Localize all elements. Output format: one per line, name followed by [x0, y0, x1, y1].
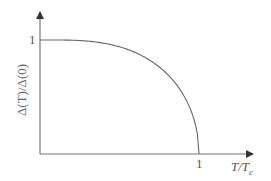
y-tick-label: 1	[29, 32, 36, 48]
gap-temperature-chart	[0, 0, 271, 181]
x-axis-label: T/Tc	[231, 159, 253, 177]
y-axis-label: Δ(T)/Δ(0)	[14, 64, 30, 116]
gap-curve	[40, 40, 199, 154]
x-tick-label: 1	[196, 156, 203, 172]
